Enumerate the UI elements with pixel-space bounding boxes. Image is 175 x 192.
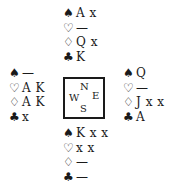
east-spades-cards: Q <box>136 66 146 81</box>
diamond-icon: ♢ <box>9 95 21 110</box>
spade-icon: ♠ <box>63 126 75 141</box>
club-icon: ♣ <box>123 110 135 125</box>
club-icon: ♣ <box>63 50 75 65</box>
compass-east-label: E <box>92 91 99 101</box>
compass-south-label: S <box>80 104 87 114</box>
spade-icon: ♠ <box>63 6 75 21</box>
east-hearts-cards: — <box>136 81 149 96</box>
west-spades-row: ♠— <box>9 66 45 81</box>
west-clubs-row: ♣x <box>9 110 45 125</box>
east-spades-row: ♠Q <box>123 66 164 81</box>
north-spades-row: ♠A x <box>63 6 98 21</box>
east-hand: ♠Q ♡— ♢J x x ♣A <box>123 66 164 124</box>
south-clubs-row: ♣— <box>63 170 109 185</box>
north-hearts-row: ♡— <box>63 21 98 36</box>
west-hearts-row: ♡A K <box>9 81 45 96</box>
south-clubs-cards: — <box>76 170 89 185</box>
west-diamonds-cards: A K <box>22 95 45 110</box>
heart-icon: ♡ <box>9 81 21 96</box>
compass-north-label: N <box>80 82 89 92</box>
north-clubs-row: ♣K <box>63 50 98 65</box>
diamond-icon: ♢ <box>63 35 75 50</box>
west-clubs-cards: x <box>22 110 29 125</box>
north-hearts-cards: — <box>76 21 89 36</box>
club-icon: ♣ <box>63 170 75 185</box>
club-icon: ♣ <box>9 110 21 125</box>
south-hearts-cards: x x <box>76 141 95 156</box>
north-diamonds-row: ♢Q x <box>63 35 98 50</box>
south-spades-row: ♠K x x <box>63 126 109 141</box>
compass-box: N W E S <box>63 77 105 119</box>
north-spades-cards: A x <box>76 6 97 21</box>
spade-icon: ♠ <box>9 66 21 81</box>
spade-icon: ♠ <box>123 66 135 81</box>
north-diamonds-cards: Q x <box>76 35 98 50</box>
east-clubs-row: ♣A <box>123 110 164 125</box>
compass-west-label: W <box>69 93 79 103</box>
west-hand: ♠— ♡A K ♢A K ♣x <box>9 66 45 124</box>
diamond-icon: ♢ <box>63 155 75 170</box>
south-hand: ♠K x x ♡x x ♢— ♣— <box>63 126 109 184</box>
west-spades-cards: — <box>22 66 35 81</box>
heart-icon: ♡ <box>63 21 75 36</box>
east-diamonds-row: ♢J x x <box>123 95 164 110</box>
south-hearts-row: ♡x x <box>63 141 109 156</box>
east-clubs-cards: A <box>136 110 145 125</box>
south-diamonds-row: ♢— <box>63 155 109 170</box>
heart-icon: ♡ <box>123 81 135 96</box>
west-diamonds-row: ♢A K <box>9 95 45 110</box>
west-hearts-cards: A K <box>22 81 45 96</box>
north-clubs-cards: K <box>76 50 85 65</box>
east-diamonds-cards: J x x <box>136 95 164 110</box>
south-diamonds-cards: — <box>76 155 89 170</box>
east-hearts-row: ♡— <box>123 81 164 96</box>
heart-icon: ♡ <box>63 141 75 156</box>
south-spades-cards: K x x <box>76 126 109 141</box>
north-hand: ♠A x ♡— ♢Q x ♣K <box>63 6 98 64</box>
diamond-icon: ♢ <box>123 95 135 110</box>
